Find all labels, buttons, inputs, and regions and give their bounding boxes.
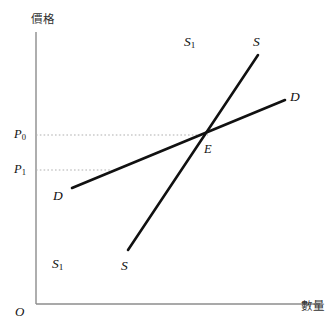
supply-label-bottom: S — [121, 259, 128, 273]
demand-label-left: D — [53, 189, 63, 203]
price-tick-p0-subscript: 0 — [22, 132, 26, 142]
chart-canvas — [0, 0, 336, 334]
equilibrium-label: E — [204, 143, 212, 156]
origin-label: O — [15, 305, 24, 318]
price-tick-p0: P0 — [14, 128, 26, 141]
price-tick-p1-subscript: 1 — [22, 167, 26, 177]
supply-shift-lower-subscript: 1 — [59, 262, 64, 272]
demand-label-right: D — [290, 90, 300, 104]
supply-label-top: S — [253, 35, 260, 49]
supply-shift-upper-letter: S — [184, 34, 191, 49]
supply-shift-upper-subscript: 1 — [191, 40, 196, 50]
price-tick-p0-letter: P — [14, 127, 22, 141]
price-tick-p1-letter: P — [14, 162, 22, 176]
supply-shift-label-lower: S1 — [52, 257, 63, 272]
price-tick-p1: P1 — [14, 163, 26, 176]
supply-shift-label-upper: S1 — [184, 35, 195, 50]
x-axis-title: 數量 — [301, 301, 325, 313]
supply-shift-lower-letter: S — [52, 256, 59, 271]
supply-demand-diagram: 價格 數量 O P0 P1 S1 S D E D S1 S — [0, 0, 336, 334]
y-axis-title: 價格 — [31, 14, 55, 26]
supply-curve — [128, 55, 258, 250]
